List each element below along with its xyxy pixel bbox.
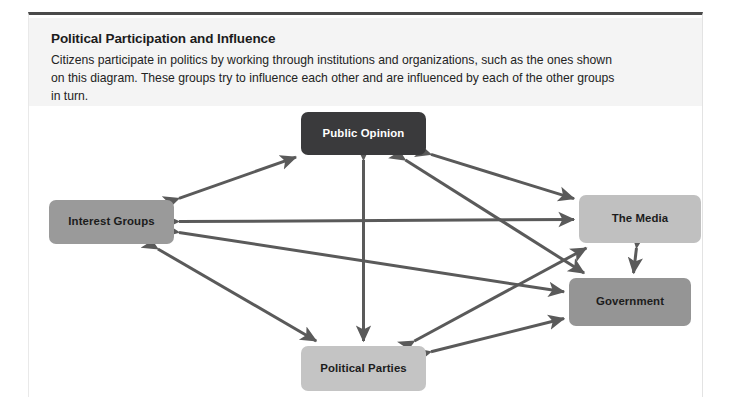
edge-political-parties-to-government [431, 319, 564, 352]
figure-header-band: Political Participation and Influence Ci… [29, 18, 702, 106]
node-public-opinion[interactable]: Public Opinion [301, 112, 426, 155]
node-label-the-media: The Media [606, 212, 675, 225]
diagram-edges [158, 154, 637, 351]
node-government[interactable]: Government [569, 278, 691, 326]
edge-public-opinion-to-government [405, 160, 584, 273]
node-label-government: Government [590, 295, 670, 308]
page-root: Political Participation and Influence Ci… [0, 0, 737, 411]
figure-card: Political Participation and Influence Ci… [28, 12, 703, 397]
node-label-political-parties: Political Parties [314, 362, 413, 375]
node-the-media[interactable]: The Media [579, 195, 701, 243]
node-interest-groups[interactable]: Interest Groups [49, 200, 174, 244]
figure-header-inner: Political Participation and Influence Ci… [29, 18, 702, 105]
node-label-interest-groups: Interest Groups [62, 215, 160, 228]
page-title: Political Participation and Influence [51, 31, 680, 47]
edge-public-opinion-to-the-media [431, 154, 574, 198]
node-label-public-opinion: Public Opinion [317, 127, 411, 140]
edge-political-parties-to-the-media [414, 248, 586, 341]
node-political-parties[interactable]: Political Parties [301, 346, 426, 391]
edge-the-media-to-government [634, 248, 637, 273]
edge-interest-groups-to-government [179, 232, 564, 291]
diagram-canvas: Public OpinionInterest GroupsThe MediaGo… [29, 106, 702, 397]
figure-description: Citizens participate in politics by work… [51, 52, 621, 105]
edge-interest-groups-to-public-opinion [179, 157, 296, 198]
edge-interest-groups-to-the-media [179, 219, 574, 221]
edge-interest-groups-to-political-parties [158, 249, 316, 341]
